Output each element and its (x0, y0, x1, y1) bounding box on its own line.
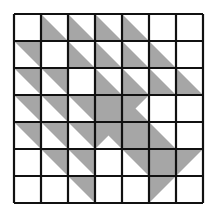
upper-right-triangle (41, 68, 68, 95)
grid-cell (68, 14, 95, 41)
lower-left-triangle (149, 41, 176, 68)
grid-cell (41, 149, 68, 176)
grid-cell (122, 41, 149, 68)
full-square (149, 149, 176, 176)
full-square (95, 95, 122, 122)
grid-cell (122, 149, 149, 176)
grid-cell (95, 68, 122, 95)
grid-cell (122, 14, 149, 41)
upper-right-triangle (14, 122, 41, 149)
square-with-right-notch (122, 95, 149, 122)
grid-cell (95, 41, 122, 68)
grid-cell (176, 68, 203, 95)
lower-left-triangle (122, 41, 149, 68)
upper-right-triangle (14, 68, 41, 95)
upper-right-triangle (41, 95, 68, 122)
upper-right-triangle (68, 176, 95, 203)
upper-right-triangle (68, 149, 95, 176)
lower-left-triangle (41, 14, 68, 41)
lower-left-triangle (122, 14, 149, 41)
upper-right-triangle (14, 41, 41, 68)
grid-cell (14, 68, 41, 95)
grid-cell (14, 95, 41, 122)
grid-cell (14, 41, 41, 68)
upper-right-triangle (68, 122, 95, 149)
grid-cell (149, 176, 176, 203)
lower-left-triangle (95, 68, 122, 95)
square-with-bottom-notch (95, 122, 122, 149)
grid-cell (176, 149, 203, 176)
grid-cell (122, 95, 149, 122)
grid-cell (95, 122, 122, 149)
grid-cell (68, 95, 95, 122)
full-square (122, 122, 149, 149)
grid-cell (41, 68, 68, 95)
upper-right-triangle (14, 95, 41, 122)
grid-cell (149, 68, 176, 95)
grid-cell (41, 122, 68, 149)
grid-cell (14, 122, 41, 149)
lower-left-triangle (68, 14, 95, 41)
grid-cell (95, 14, 122, 41)
upper-left-triangle (176, 149, 203, 176)
lower-left-triangle (68, 41, 95, 68)
upper-right-triangle (68, 95, 95, 122)
grid-canvas (14, 14, 203, 203)
grid-cell (68, 149, 95, 176)
lower-left-triangle (149, 68, 176, 95)
lower-left-triangle (95, 14, 122, 41)
grid-cell (68, 41, 95, 68)
lower-left-triangle (122, 68, 149, 95)
grid-cell (68, 122, 95, 149)
grid-cell (41, 14, 68, 41)
grid-cell (122, 122, 149, 149)
upper-right-triangle (122, 149, 149, 176)
upper-right-triangle (41, 122, 68, 149)
grid-cell (68, 176, 95, 203)
tile-grid-diagram (14, 14, 203, 203)
lower-left-triangle (149, 122, 176, 149)
upper-right-triangle (41, 149, 68, 176)
grid-cell (149, 149, 176, 176)
lower-left-triangle (95, 41, 122, 68)
upper-left-triangle (149, 176, 176, 203)
grid-cell (149, 41, 176, 68)
lower-left-triangle (176, 68, 203, 95)
grid-cell (122, 68, 149, 95)
grid-cell (95, 95, 122, 122)
grid-cell (41, 95, 68, 122)
grid-cell (149, 122, 176, 149)
